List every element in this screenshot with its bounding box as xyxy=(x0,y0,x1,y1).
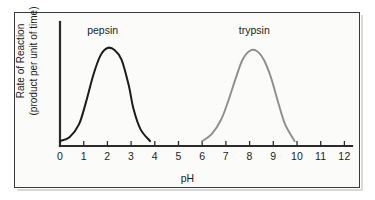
x-axis-tick-label: 2 xyxy=(96,150,118,162)
x-axis-tick-label: 0 xyxy=(49,150,71,162)
y-axis-title-line1: Rate of Reaction xyxy=(15,24,26,99)
y-axis-title-line2: (product per unit of time) xyxy=(27,0,40,126)
curve-trypsin xyxy=(202,50,294,141)
x-axis-tick-label: 12 xyxy=(333,150,355,162)
x-axis-tick-label: 11 xyxy=(310,150,332,162)
x-axis-tick-label: 10 xyxy=(286,150,308,162)
x-axis-title: pH xyxy=(0,172,375,184)
x-axis-tick-label: 1 xyxy=(73,150,95,162)
curve-pepsin xyxy=(60,48,150,141)
x-axis-tick-label: 3 xyxy=(120,150,142,162)
curve-label-pepsin: pepsin xyxy=(87,24,118,36)
x-axis-tick-label: 4 xyxy=(144,150,166,162)
y-axis-title: Rate of Reaction (product per unit of ti… xyxy=(14,0,40,126)
x-axis-tick-label: 7 xyxy=(215,150,237,162)
x-axis-tick-label: 6 xyxy=(191,150,213,162)
x-axis-tick-label: 8 xyxy=(239,150,261,162)
plot-area xyxy=(0,0,375,200)
curve-label-trypsin: trypsin xyxy=(239,24,270,36)
chart-screenshot: 0123456789101112 pH Rate of Reaction (pr… xyxy=(0,0,375,200)
x-axis-tick-label: 5 xyxy=(168,150,190,162)
x-axis-tick-label: 9 xyxy=(262,150,284,162)
